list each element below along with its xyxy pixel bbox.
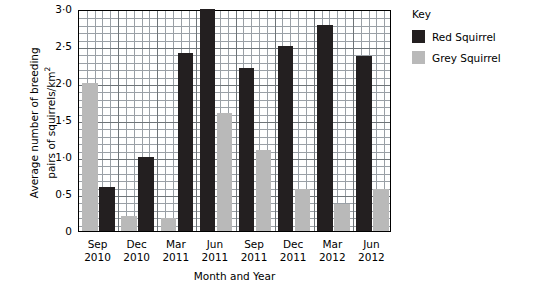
x-axis-tick-year: 2010 <box>123 251 150 263</box>
x-axis-tick-month: Dec <box>283 238 303 250</box>
bar-red-squirrel <box>99 187 115 231</box>
x-axis-tick-year: 2012 <box>319 251 346 263</box>
bar-grey-squirrel <box>334 204 350 231</box>
legend-title: Key <box>412 8 530 20</box>
bars-layer <box>79 11 390 231</box>
y-axis-tick-label: 3·0 <box>40 3 72 15</box>
y-axis-tick-label: 1·5 <box>40 114 72 126</box>
y-axis-tick-label: 2·5 <box>40 40 72 52</box>
bar-grey-squirrel <box>373 189 389 231</box>
bar-red-squirrel <box>178 53 194 231</box>
legend-swatch-red-squirrel <box>412 30 425 43</box>
bar-red-squirrel <box>239 68 255 231</box>
legend: Key Red Squirrel Grey Squirrel <box>412 8 530 72</box>
bar-grey-squirrel <box>295 189 311 231</box>
y-axis-title-superscript: 2 <box>43 67 52 72</box>
x-axis-tick-month: Jun <box>363 238 379 250</box>
plot-area <box>78 10 391 232</box>
bar-grey-squirrel <box>256 150 272 231</box>
x-axis-tick-month: Sep <box>244 238 264 250</box>
bar-red-squirrel <box>278 46 294 231</box>
x-axis-tick-year: 2010 <box>84 251 111 263</box>
x-axis-tick-month: Jun <box>207 238 223 250</box>
bar-red-squirrel <box>200 9 216 231</box>
bar-red-squirrel <box>138 157 154 231</box>
bar-grey-squirrel <box>161 218 177 231</box>
legend-label-red-squirrel: Red Squirrel <box>432 31 496 43</box>
bar-grey-squirrel <box>217 113 233 231</box>
legend-swatch-grey-squirrel <box>412 51 425 64</box>
x-axis-tick-year: 2011 <box>280 251 307 263</box>
x-axis-tick-month: Mar <box>166 238 186 250</box>
y-axis-tick-label: 2·0 <box>40 77 72 89</box>
bar-grey-squirrel <box>82 83 98 231</box>
x-axis-title: Month and Year <box>78 270 391 282</box>
y-axis-tick-label: 1·0 <box>40 151 72 163</box>
x-axis-tick-month: Mar <box>322 238 342 250</box>
bar-red-squirrel <box>317 25 333 231</box>
bar-red-squirrel <box>356 56 372 231</box>
legend-item-grey-squirrel: Grey Squirrel <box>412 51 530 64</box>
legend-item-red-squirrel: Red Squirrel <box>412 30 530 43</box>
x-axis-tick-year: 2012 <box>358 251 385 263</box>
y-axis-tick-label: 0 <box>40 225 72 237</box>
x-axis-tick-year: 2011 <box>162 251 189 263</box>
x-axis-tick-month: Dec <box>127 238 147 250</box>
x-axis-tick-month: Sep <box>88 238 108 250</box>
legend-label-grey-squirrel: Grey Squirrel <box>432 52 501 64</box>
x-axis-tick-label: Jun2012 <box>343 238 399 264</box>
x-axis-tick-year: 2011 <box>202 251 229 263</box>
y-axis-tick-label: 0·5 <box>40 188 72 200</box>
chart-root: Average number of breeding pairs of squi… <box>0 0 533 297</box>
y-axis-title-line1: Average number of breeding <box>28 47 40 198</box>
x-axis-tick-year: 2011 <box>241 251 268 263</box>
bar-grey-squirrel <box>121 216 137 231</box>
